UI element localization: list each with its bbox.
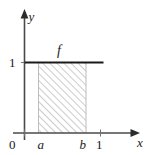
x-axis-label: x xyxy=(136,135,143,150)
x-tick-label-0: 0 xyxy=(9,137,16,152)
x-tick-label-1: 1 xyxy=(96,137,103,152)
y-tick-label-1: 1 xyxy=(9,55,16,70)
y-axis-arrow-icon xyxy=(21,9,29,19)
shaded-region-fill xyxy=(39,63,87,134)
function-plot-figure: y x f 1 0 a b 1 xyxy=(0,0,149,155)
shaded-region xyxy=(39,63,87,134)
y-axis xyxy=(21,9,29,140)
y-axis-label: y xyxy=(27,9,35,24)
x-tick-label-a: a xyxy=(38,137,45,152)
x-tick-label-b: b xyxy=(80,137,87,152)
plot-canvas: y x f 1 0 a b 1 xyxy=(0,0,149,155)
function-label-f: f xyxy=(57,43,63,58)
